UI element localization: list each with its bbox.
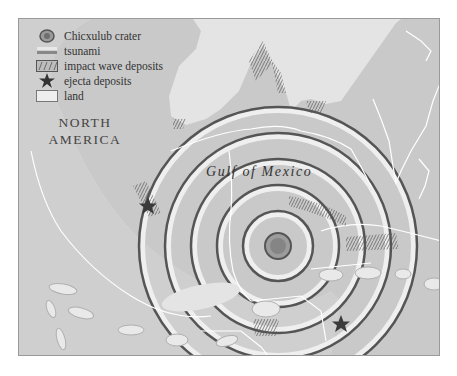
map-legend: Chicxulub crater tsunami impact wave dep… bbox=[36, 28, 186, 103]
legend-label: ejecta deposits bbox=[64, 75, 131, 87]
legend-label: impact wave deposits bbox=[64, 60, 163, 72]
gulf-of-mexico-label: Gulf of Mexico bbox=[206, 164, 312, 180]
tsunami-icon bbox=[36, 45, 58, 57]
legend-label: Chicxulub crater bbox=[64, 30, 141, 42]
legend-label: land bbox=[64, 90, 84, 102]
legend-item-tsunami: tsunami bbox=[36, 43, 186, 58]
chicxulub-crater bbox=[265, 233, 291, 259]
north-america-label-line2: AMERICA bbox=[40, 131, 130, 148]
north-america-label-line1: NORTH bbox=[40, 114, 130, 131]
legend-item-impact-wave: impact wave deposits bbox=[36, 58, 186, 73]
crater-icon bbox=[36, 30, 58, 42]
legend-item-ejecta: ejecta deposits bbox=[36, 73, 186, 88]
legend-item-crater: Chicxulub crater bbox=[36, 28, 186, 43]
impact-wave-deposits-icon bbox=[36, 60, 58, 72]
star-icon bbox=[36, 75, 58, 87]
legend-item-land: land bbox=[36, 88, 186, 103]
land-icon bbox=[36, 90, 58, 102]
legend-label: tsunami bbox=[64, 45, 100, 57]
north-america-label: NORTH AMERICA bbox=[40, 114, 130, 148]
